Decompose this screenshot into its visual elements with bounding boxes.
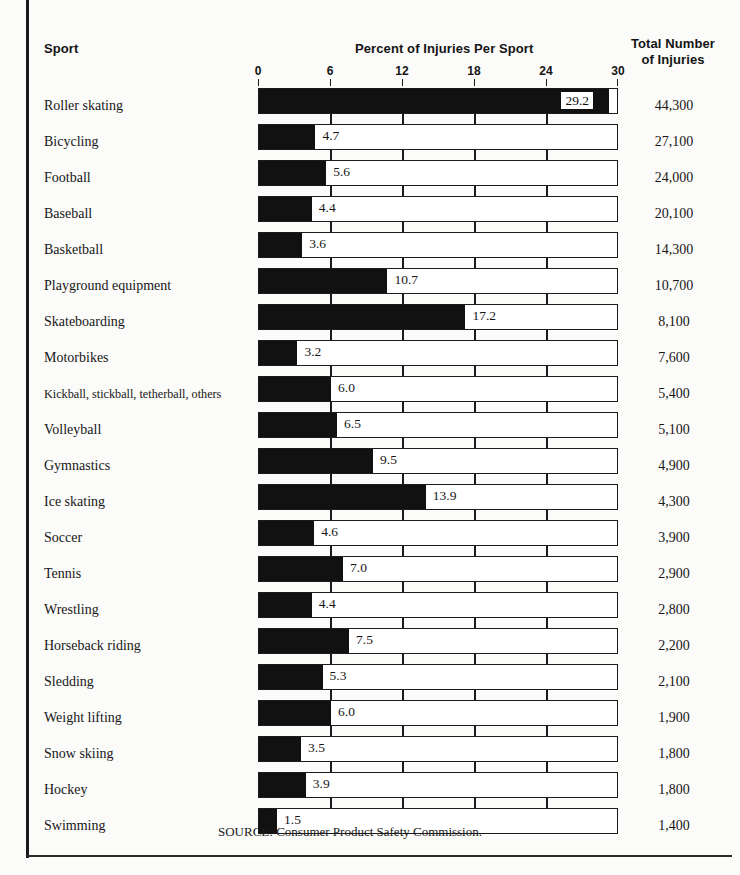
axis-gap-tick (330, 726, 332, 736)
bar-fill[interactable] (259, 737, 301, 761)
bar-value-label: 13.9 (433, 488, 457, 504)
x-axis-tick-label: 30 (611, 64, 624, 78)
total-injuries-row: 2,100 (628, 664, 720, 700)
sport-label-row: Bicycling (44, 124, 254, 160)
axis-gap-tick (330, 330, 332, 340)
axis-gap-tick (402, 150, 404, 160)
bar-fill[interactable] (259, 701, 331, 725)
axis-gap-tick (402, 366, 404, 376)
axis-gap-tick (474, 438, 476, 448)
total-injuries-row: 1,900 (628, 700, 720, 736)
total-injuries-value: 2,800 (658, 602, 690, 618)
axis-gap-tick (546, 654, 548, 664)
bar-value-label: 3.5 (308, 740, 325, 756)
axis-gap-tick (546, 222, 548, 232)
bar-fill[interactable] (259, 269, 387, 293)
bar-fill[interactable] (259, 665, 323, 689)
total-injuries-row: 44,300 (628, 88, 720, 124)
sport-label-row: Football (44, 160, 254, 196)
axis-gap-tick (330, 474, 332, 484)
axis-gap-tick (402, 186, 404, 196)
axis-gap-tick (330, 366, 332, 376)
x-axis-tick-label: 18 (467, 64, 480, 78)
axis-gap-tick (330, 582, 332, 592)
sport-label: Basketball (44, 242, 103, 258)
sport-label-row: Basketball (44, 232, 254, 268)
bar-fill[interactable] (259, 197, 312, 221)
sport-label: Skateboarding (44, 314, 125, 330)
sport-label: Bicycling (44, 134, 98, 150)
bar-fill[interactable] (259, 629, 349, 653)
bar-row: 5.3 (258, 664, 618, 700)
total-injuries-value: 1,900 (658, 710, 690, 726)
total-injuries-row: 2,900 (628, 556, 720, 592)
total-injuries-column: 44,30027,10024,00020,10014,30010,7008,10… (628, 88, 720, 844)
total-injuries-row: 20,100 (628, 196, 720, 232)
total-injuries-row: 27,100 (628, 124, 720, 160)
sport-label-row: Wrestling (44, 592, 254, 628)
total-injuries-value: 14,300 (655, 242, 694, 258)
total-injuries-value: 2,100 (658, 674, 690, 690)
bar-fill[interactable] (259, 305, 465, 329)
bar-value-label: 4.4 (319, 200, 336, 216)
bar-value-label: 4.4 (319, 596, 336, 612)
bar-track (258, 556, 618, 582)
bar-value-label: 3.2 (304, 344, 321, 360)
axis-gap-tick (474, 186, 476, 196)
bar-value-label: 3.6 (309, 236, 326, 252)
axis-gap-tick (474, 402, 476, 412)
axis-gap-tick (474, 726, 476, 736)
bar-row: 4.6 (258, 520, 618, 556)
sport-label: Soccer (44, 530, 82, 546)
axis-gap-tick (546, 474, 548, 484)
sport-label: Roller skating (44, 98, 123, 114)
chart-title: Percent of Injuries Per Sport (355, 41, 533, 56)
sport-label: Volleyball (44, 422, 101, 438)
sport-label-row: Volleyball (44, 412, 254, 448)
bar-fill[interactable] (259, 449, 373, 473)
axis-gap-tick (474, 762, 476, 772)
chart-page: Sport Percent of Injuries Per Sport Tota… (0, 0, 740, 875)
bar-track (258, 196, 618, 222)
axis-gap-tick (330, 186, 332, 196)
axis-gap-tick (330, 114, 332, 124)
sport-label-row: Kickball, stickball, tetherball, others (44, 376, 254, 412)
bar-fill[interactable] (259, 125, 315, 149)
axis-gap-tick (402, 726, 404, 736)
bar-fill[interactable] (259, 377, 331, 401)
bar-fill[interactable] (259, 233, 302, 257)
bar-track (258, 376, 618, 402)
bar-fill[interactable] (259, 593, 312, 617)
axis-gap-tick (546, 330, 548, 340)
axis-gap-tick (330, 258, 332, 268)
bar-fill[interactable] (259, 557, 343, 581)
bar-row: 3.2 (258, 340, 618, 376)
axis-gap-tick (330, 762, 332, 772)
total-injuries-value: 3,900 (658, 530, 690, 546)
bar-fill[interactable] (259, 89, 609, 113)
axis-gap-tick (546, 690, 548, 700)
bar-row: 4.4 (258, 196, 618, 232)
bar-value-label: 10.7 (394, 272, 418, 288)
sport-label: Weight lifting (44, 710, 122, 726)
total-injuries-value: 1,800 (658, 746, 690, 762)
bar-fill[interactable] (259, 773, 306, 797)
axis-gap-tick (546, 726, 548, 736)
sport-label-row: Ice skating (44, 484, 254, 520)
sport-label: Wrestling (44, 602, 99, 618)
axis-gap-tick (402, 510, 404, 520)
bar-fill[interactable] (259, 485, 426, 509)
axis-gap-tick (330, 618, 332, 628)
sport-label: Hockey (44, 782, 88, 798)
axis-gap-tick (474, 222, 476, 232)
axis-gap-tick (402, 618, 404, 628)
axis-gap-tick (402, 654, 404, 664)
bar-fill[interactable] (259, 521, 314, 545)
bar-fill[interactable] (259, 341, 297, 365)
axis-gap-tick (546, 258, 548, 268)
bar-track (258, 304, 618, 330)
sport-label: Motorbikes (44, 350, 109, 366)
bar-fill[interactable] (259, 161, 326, 185)
bar-fill[interactable] (259, 413, 337, 437)
page-bottom-rule (26, 855, 732, 857)
